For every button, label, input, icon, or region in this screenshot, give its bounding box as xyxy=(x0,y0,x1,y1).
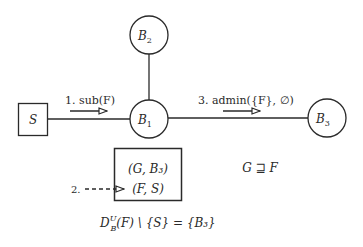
routing-table: (G, B₃) (F, S) xyxy=(115,149,182,201)
node-b3-circle xyxy=(308,99,346,137)
formula: DUB(F) \ {S} = {B₃} xyxy=(99,214,216,233)
node-b3: B3 xyxy=(308,99,346,137)
message-step1-label: 1. sub(F) xyxy=(65,94,115,107)
routing-table-row-2: (F, S) xyxy=(132,182,164,196)
node-b1-label: B1 xyxy=(137,113,152,129)
node-b1-circle xyxy=(130,100,168,138)
routing-table-row-1: (G, B₃) xyxy=(128,162,168,176)
node-b2-label: B2 xyxy=(137,29,152,45)
relation-label: G ⊒ F xyxy=(242,161,278,175)
node-b3-label: B3 xyxy=(315,112,330,128)
message-step3-label: 3. admin({F}, ∅) xyxy=(198,94,294,107)
diagram-canvas: S B2 B1 B3 1. sub(F) 3. admin({F}, ∅) (G… xyxy=(0,0,363,247)
node-s: S xyxy=(19,104,48,136)
node-b2: B2 xyxy=(130,16,168,54)
node-b2-circle xyxy=(130,16,168,54)
node-b1: B1 xyxy=(130,100,168,138)
node-s-label: S xyxy=(29,113,37,127)
message-step2-label: 2. xyxy=(71,184,81,195)
